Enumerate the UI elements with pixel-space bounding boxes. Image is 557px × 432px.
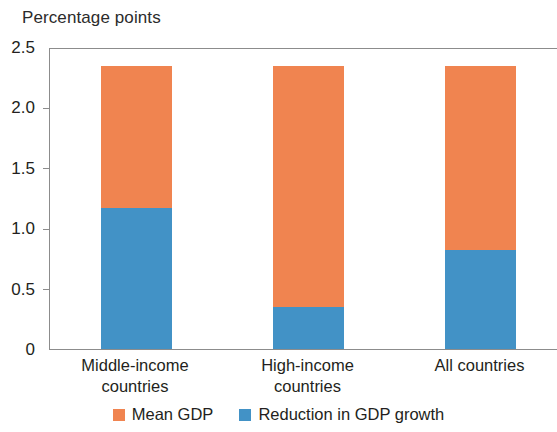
legend-swatch-icon [113, 409, 125, 421]
bar-segment-reduction-in-gdp-growth [273, 307, 344, 349]
x-axis-category-label-line2: countries [45, 376, 225, 397]
x-axis-category-label-line1: Middle-income [81, 356, 188, 374]
x-axis-category-label-line2: countries [218, 376, 398, 397]
legend-item-label: Mean GDP [132, 405, 214, 424]
plot-area [49, 48, 557, 350]
legend-swatch-icon [239, 409, 251, 421]
x-axis-category-label-line1: High-income [261, 356, 354, 374]
y-axis-tick-label: 1.0 [11, 219, 35, 239]
bar-group [445, 47, 516, 349]
bar-segment-mean-gdp [445, 66, 516, 250]
bar-segment-mean-gdp [273, 66, 344, 306]
legend-item[interactable]: Mean GDP [113, 405, 214, 424]
bar-segment-reduction-in-gdp-growth [101, 208, 172, 349]
bar-group [273, 47, 344, 349]
stacked-bar-chart: Percentage points 2.52.01.51.00.50 Middl… [0, 0, 557, 432]
y-axis-tick-label: 2.0 [11, 98, 35, 118]
legend-item-label: Reduction in GDP growth [258, 405, 444, 424]
y-axis-tick-label: 2.5 [11, 38, 35, 58]
chart-legend: Mean GDPReduction in GDP growth [0, 405, 557, 424]
legend-item[interactable]: Reduction in GDP growth [239, 405, 444, 424]
x-axis-category-label: All countries [390, 355, 557, 376]
y-axis-labels: 2.52.01.51.00.50 [0, 48, 44, 350]
bar-group [101, 47, 172, 349]
chart-title: Percentage points [22, 8, 161, 28]
y-axis-tick-label: 0.5 [11, 280, 35, 300]
x-axis-category-label: Middle-incomecountries [45, 355, 225, 397]
x-axis-labels: Middle-incomecountriesHigh-incomecountri… [0, 355, 557, 407]
bar-segment-mean-gdp [101, 66, 172, 207]
x-axis-category-label-line1: All countries [435, 356, 525, 374]
y-axis-tick-label: 1.5 [11, 159, 35, 179]
x-axis-category-label: High-incomecountries [218, 355, 398, 397]
bar-segment-reduction-in-gdp-growth [445, 250, 516, 349]
